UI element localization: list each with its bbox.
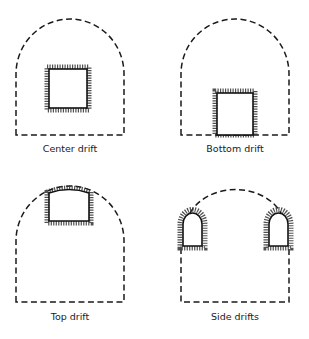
panel-label: Top drift xyxy=(50,311,90,322)
top-drift-opening xyxy=(49,190,89,222)
right-side-drift-opening xyxy=(269,213,288,246)
panel-bottom-drift: Bottom drift xyxy=(181,19,289,154)
panel-label: Side drifts xyxy=(211,311,259,322)
left-side-drift-opening xyxy=(183,213,202,246)
panel-label: Bottom drift xyxy=(206,143,264,154)
bottom-drift-opening xyxy=(217,93,253,135)
panel-label: Center drift xyxy=(43,143,98,154)
panel-side-drifts: Side drifts xyxy=(180,190,291,322)
tunnel-walls-and-floor xyxy=(181,248,289,302)
center-drift-opening xyxy=(49,69,87,108)
tunnel-drift-methods-diagram: Center drift Bottom drift Top drift Side… xyxy=(0,0,309,339)
panel-center-drift: Center drift xyxy=(16,19,124,154)
panel-top-drift: Top drift xyxy=(16,186,124,322)
tunnel-arch xyxy=(190,190,281,213)
